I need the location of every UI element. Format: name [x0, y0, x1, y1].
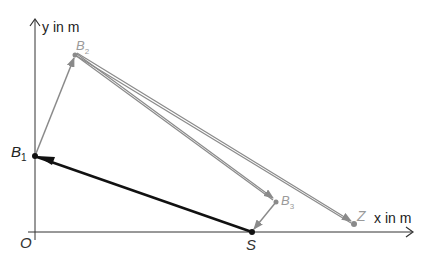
y-axis-label-text: y in m [42, 19, 79, 35]
label-b2-sub: 2 [85, 47, 89, 56]
origin-label: O [20, 234, 32, 251]
point-b1 [32, 153, 38, 159]
label-z-text: Z [357, 208, 366, 224]
vector-diagram [0, 0, 435, 264]
label-b1: B1 [11, 143, 27, 163]
label-b1-main: B [11, 143, 21, 160]
label-b3: B3 [281, 193, 294, 211]
point-b3 [274, 200, 279, 205]
label-b1-sub: 1 [21, 152, 27, 163]
vector-b1-b2 [35, 58, 74, 156]
vector-b3-s [254, 202, 276, 229]
label-b2-main: B [76, 38, 85, 53]
vector-b2-b3 [75, 54, 273, 200]
y-axis [30, 19, 40, 240]
label-s: S [246, 236, 256, 253]
label-b3-main: B [281, 193, 290, 208]
vector-b2-z [75, 53, 351, 223]
origin-label-text: O [20, 234, 32, 251]
x-axis [28, 227, 413, 237]
label-s-text: S [246, 236, 256, 253]
x-axis-label: x in m [374, 210, 411, 226]
vector-s-b1 [37, 156, 252, 232]
label-z: Z [357, 208, 366, 224]
x-axis-label-text: x in m [374, 210, 411, 226]
point-s [249, 229, 255, 235]
y-axis-label: y in m [42, 19, 79, 35]
label-b2: B2 [76, 38, 89, 56]
label-b3-sub: 3 [290, 202, 294, 211]
